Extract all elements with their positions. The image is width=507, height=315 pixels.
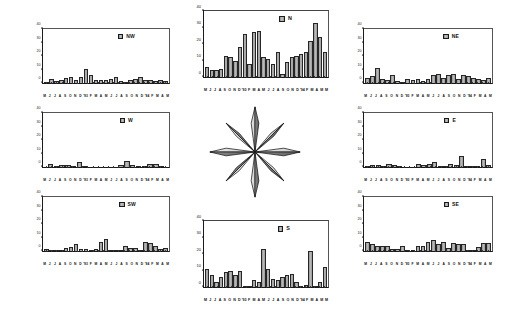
bar [290, 274, 294, 287]
bar [104, 239, 109, 251]
bar [257, 31, 261, 77]
y-axis-tick-label: 40 [37, 24, 44, 28]
y-axis-tick [41, 41, 43, 42]
y-axis-tick-label: 10 [358, 148, 365, 152]
y-axis-tick-label: 0 [360, 246, 365, 250]
x-axis-labels-s: MJJASOND'93FMAMJJASOND'94FMAMM [203, 298, 329, 308]
legend-label-e: E [452, 118, 456, 123]
y-axis-tick-label: 10 [196, 54, 204, 58]
panel-nw: NW 010203040 MJJASOND'93FMAMJJASOND'94FM… [22, 26, 172, 104]
y-axis-tick [362, 223, 364, 224]
bar [304, 52, 308, 77]
x-axis-tick [165, 82, 170, 84]
y-axis-tick-label: 10 [37, 64, 44, 68]
y-axis-tick-label: 40 [358, 192, 365, 196]
y-axis-tick-label: 20 [37, 219, 44, 223]
x-axis-tick [324, 76, 329, 78]
y-axis-tick [41, 209, 43, 210]
legend-swatch-icon [118, 34, 123, 39]
y-axis-tick-label: 40 [37, 192, 44, 196]
x-axis-tick-label: M [165, 263, 170, 266]
y-axis-tick-label: 20 [358, 219, 365, 223]
bar [261, 57, 265, 77]
y-axis-tick [41, 152, 43, 153]
bar [323, 52, 327, 77]
y-axis-tick-label: 0 [39, 246, 44, 250]
y-axis-tick-label: 40 [358, 108, 365, 112]
y-axis-tick-label: 30 [37, 37, 44, 41]
y-axis-tick [362, 152, 364, 153]
x-ticks-n [203, 76, 329, 78]
legend-w: W [120, 118, 133, 123]
plot-area-ne: NE 010203040 [343, 26, 495, 93]
legend-label-se: SE [452, 202, 459, 207]
legend-sw: SW [119, 202, 136, 207]
x-axis-tick [488, 166, 493, 168]
bar [299, 54, 303, 77]
y-axis-tick [362, 112, 364, 113]
y-axis-tick-label: 0 [199, 71, 204, 75]
panel-w: W 010203040 MJJASOND'93FMAMJJASOND'94FMA… [22, 110, 172, 188]
axis-box-ne: NE 010203040 [363, 28, 493, 84]
bar [285, 275, 289, 287]
bar [276, 52, 280, 77]
bar-series-n [205, 11, 327, 77]
x-axis-tick [324, 286, 329, 288]
y-axis-tick [362, 28, 364, 29]
y-axis-tick-label: 30 [37, 121, 44, 125]
y-axis-tick [41, 28, 43, 29]
x-axis-labels-n: MJJASOND'93FMAMJJASOND'94FMAMM [203, 88, 329, 98]
y-axis-tick-label: 0 [360, 162, 365, 166]
bar-series-w [44, 113, 168, 167]
bar [285, 62, 289, 77]
bar [228, 57, 232, 77]
bar-series-s [205, 221, 327, 287]
bar [233, 275, 237, 287]
y-axis-tick-label: 40 [358, 24, 365, 28]
y-axis-tick-label: 30 [196, 231, 204, 235]
x-axis-tick-label: M [488, 95, 493, 98]
compass-rose-icon [196, 104, 314, 200]
x-ticks-ne [363, 82, 493, 84]
y-axis-tick-label: 10 [196, 264, 204, 268]
legend-nw: NW [118, 34, 135, 39]
bar [266, 59, 270, 77]
y-axis-tick-label: 40 [196, 5, 204, 9]
y-axis-tick [202, 253, 204, 254]
bar [313, 23, 317, 77]
x-axis-tick-label: M [488, 179, 493, 182]
panel-sw: SW 010203040 MJJASOND'93FMAMJJASOND'94FM… [22, 194, 172, 272]
legend-ne: NE [443, 34, 459, 39]
bar [224, 56, 228, 77]
bar [323, 267, 327, 287]
x-axis-labels-se: MJJASOND'93FMAMJJASOND'94FMAM [363, 262, 493, 272]
bar [294, 56, 298, 77]
wind-direction-figure: NW 010203040 MJJASOND'93FMAMJJASOND'94FM… [0, 0, 507, 315]
bar [318, 37, 322, 77]
plot-area-w: W 010203040 [22, 110, 172, 177]
y-axis-tick-label: 30 [358, 37, 365, 41]
axis-box-se: SE 010203040 [363, 196, 493, 252]
legend-label-ne: NE [452, 34, 459, 39]
plot-area-e: E 010203040 [343, 110, 495, 177]
bar [290, 57, 294, 77]
x-axis-tick [165, 166, 170, 168]
y-axis-tick [362, 125, 364, 126]
y-axis-tick-label: 0 [360, 78, 365, 82]
y-axis-tick-label: 0 [199, 281, 204, 285]
legend-n: N [279, 16, 292, 22]
y-axis-tick-label: 20 [196, 38, 204, 42]
x-ticks-s [203, 286, 329, 288]
y-axis-tick-label: 10 [358, 64, 365, 68]
bar [431, 240, 436, 251]
bar-series-nw [44, 29, 168, 83]
bar-series-e [365, 113, 491, 167]
axis-box-sw: SW 010203040 [42, 196, 170, 252]
x-axis-labels-ne: MJJASOND'93FMAMJJASOND'94FMAM [363, 94, 493, 104]
x-ticks-nw [42, 82, 170, 84]
panel-se: SE 010203040 MJJASOND'93FMAMJJASOND'94FM… [343, 194, 495, 272]
x-axis-tick [165, 250, 170, 252]
axis-box-w: W 010203040 [42, 112, 170, 168]
y-axis-tick-label: 30 [37, 205, 44, 209]
y-axis-tick [41, 196, 43, 197]
